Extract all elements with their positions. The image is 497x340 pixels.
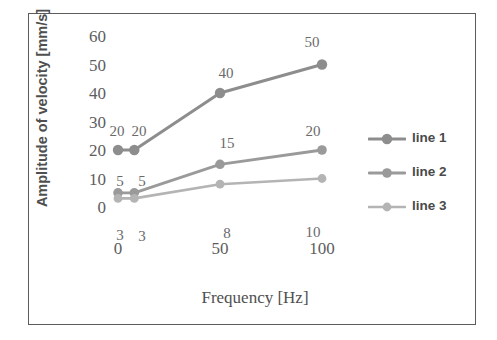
legend-label: line 1 bbox=[412, 130, 447, 145]
legend: line 1line 2line 3 bbox=[368, 123, 472, 225]
data-point-label: 15 bbox=[220, 136, 235, 151]
data-point-label: 3 bbox=[138, 229, 146, 244]
y-tick-label: 50 bbox=[76, 56, 106, 73]
y-axis-ticks: 6050403020100 bbox=[74, 36, 106, 207]
x-axis-title: Frequency [Hz] bbox=[150, 288, 360, 308]
data-point-label: 5 bbox=[116, 174, 124, 189]
y-tick-label: 30 bbox=[76, 113, 106, 130]
y-tick-label: 60 bbox=[76, 28, 106, 45]
data-point-label: 20 bbox=[132, 124, 147, 139]
legend-item-1[interactable]: line 1 bbox=[368, 123, 472, 157]
data-point-label: 3 bbox=[116, 228, 124, 243]
data-point-label: 50 bbox=[305, 35, 320, 50]
data-point-label: 40 bbox=[219, 66, 234, 81]
chart-page: 6050403020100 050100 Amplitude of veloci… bbox=[0, 0, 497, 340]
legend-label: line 3 bbox=[412, 198, 447, 213]
y-tick-label: 0 bbox=[76, 199, 106, 216]
legend-label: line 2 bbox=[412, 164, 447, 179]
data-point-label: 5 bbox=[138, 174, 146, 189]
y-tick-label: 10 bbox=[76, 170, 106, 187]
x-tick-label: 50 bbox=[212, 240, 229, 257]
legend-swatch-icon bbox=[368, 166, 406, 180]
data-point-label: 20 bbox=[110, 124, 125, 139]
data-point-label: 8 bbox=[223, 226, 231, 241]
data-point-label: 10 bbox=[306, 225, 321, 240]
data-point-label: 20 bbox=[306, 124, 321, 139]
legend-swatch-icon bbox=[368, 200, 406, 214]
y-axis-title: Amplitude of velocity [mm/s] bbox=[34, 0, 50, 218]
y-tick-label: 20 bbox=[76, 142, 106, 159]
legend-item-2[interactable]: line 2 bbox=[368, 157, 472, 191]
y-tick-label: 40 bbox=[76, 85, 106, 102]
x-tick-label: 0 bbox=[114, 240, 123, 257]
x-tick-label: 100 bbox=[309, 240, 335, 257]
legend-swatch-icon bbox=[368, 132, 406, 146]
legend-item-3[interactable]: line 3 bbox=[368, 191, 472, 225]
